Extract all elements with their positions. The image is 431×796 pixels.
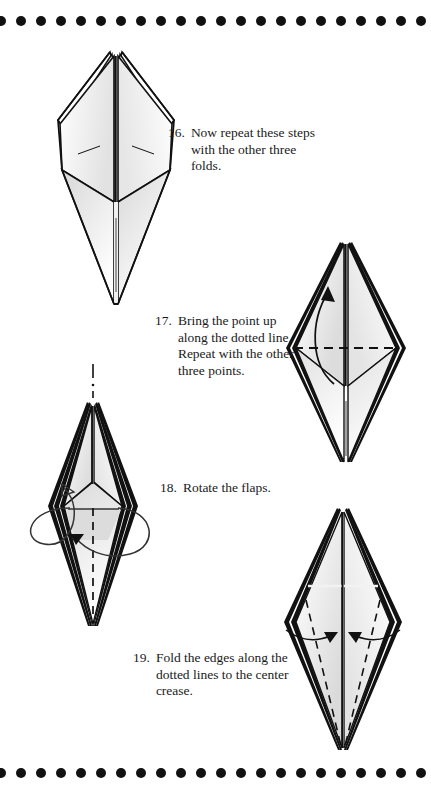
border-dot: [156, 768, 166, 778]
figure-step-18: [18, 358, 168, 660]
instruction-page: 16. Now repeat these steps with the othe…: [0, 0, 431, 796]
step-18-number: 18.: [160, 480, 183, 497]
step-17-text: Bring the point up along the dotted line…: [178, 313, 305, 379]
border-dot: [76, 16, 86, 26]
border-dot: [156, 16, 166, 26]
border-dot: [96, 768, 106, 778]
border-dot: [136, 16, 146, 26]
border-dot: [56, 768, 66, 778]
border-dot: [376, 768, 386, 778]
border-dot: [176, 16, 186, 26]
border-dot: [236, 768, 246, 778]
border-dot: [176, 768, 186, 778]
border-dot: [276, 16, 286, 26]
border-dot: [216, 16, 226, 26]
top-dotted-border: [0, 16, 431, 28]
step-17: 17. Bring the point up along the dotted …: [155, 313, 305, 379]
border-dot: [216, 768, 226, 778]
border-dot: [16, 16, 26, 26]
step-17-number: 17.: [155, 313, 178, 330]
border-dot: [336, 768, 346, 778]
step-16-number: 16.: [168, 125, 191, 142]
border-dot: [196, 16, 206, 26]
step-19: 19. Fold the edges along the dotted line…: [133, 650, 308, 700]
border-dot: [296, 768, 306, 778]
border-dot: [0, 16, 6, 26]
border-dot: [256, 768, 266, 778]
border-dot: [336, 16, 346, 26]
figure-step-16: [52, 42, 180, 310]
border-dot: [116, 16, 126, 26]
border-dot: [36, 768, 46, 778]
border-dot: [356, 768, 366, 778]
border-dot: [296, 16, 306, 26]
figure-step-19: [268, 500, 418, 762]
border-dot: [396, 16, 406, 26]
border-dot: [276, 768, 286, 778]
step-18: 18. Rotate the flaps.: [160, 480, 280, 497]
step-16: 16. Now repeat these steps with the othe…: [168, 125, 318, 175]
border-dot: [196, 768, 206, 778]
border-dot: [0, 768, 6, 778]
step-19-number: 19.: [133, 650, 156, 667]
border-dot: [236, 16, 246, 26]
border-dot: [56, 16, 66, 26]
border-dot: [396, 768, 406, 778]
border-dot: [136, 768, 146, 778]
border-dot: [116, 768, 126, 778]
step-18-text: Rotate the flaps.: [183, 480, 271, 497]
step-16-text: Now repeat these steps with the other th…: [191, 125, 318, 175]
border-dot: [96, 16, 106, 26]
border-dot: [36, 16, 46, 26]
step-19-text: Fold the edges along the dotted lines to…: [156, 650, 308, 700]
border-dot: [76, 768, 86, 778]
border-dot: [316, 768, 326, 778]
border-dot: [416, 768, 426, 778]
border-dot: [16, 768, 26, 778]
dash-dot-axis: [92, 364, 95, 398]
border-dot: [356, 16, 366, 26]
border-dot: [416, 16, 426, 26]
bottom-dotted-border: [0, 768, 431, 780]
border-dot: [256, 16, 266, 26]
border-dot: [316, 16, 326, 26]
border-dot: [376, 16, 386, 26]
